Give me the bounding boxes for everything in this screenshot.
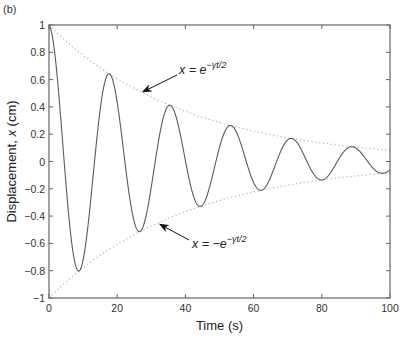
x-tick-label: 40 [180, 302, 192, 314]
x-tick-label: 60 [248, 302, 260, 314]
y-tick-label: −1 [33, 292, 45, 304]
x-tick-label: 80 [316, 302, 328, 314]
damped-oscillation-chart: (b) 020406080100 −1−0.8−0.6−0.4−0.200.20… [0, 0, 406, 339]
lower-envelope-arrow [160, 224, 189, 240]
lower-envelope-curve [49, 173, 390, 298]
x-tick-label: 100 [381, 302, 399, 314]
y-tick-label: 1 [39, 19, 45, 31]
y-axis-label: Displacement, x (cm) [4, 100, 19, 222]
y-tick-label: −0.4 [24, 210, 45, 222]
upper-envelope-arrow [143, 75, 177, 92]
y-tick-label: 0.2 [30, 128, 45, 140]
x-axis-label: Time (s) [196, 318, 243, 333]
y-tick-label: −0.2 [24, 183, 45, 195]
x-tick-label: 0 [46, 302, 52, 314]
y-tick-label: 0.4 [30, 101, 45, 113]
y-tick-label: 0 [39, 156, 45, 168]
upper-envelope-label: x = e−γt/2 [178, 60, 226, 77]
upper-envelope-curve [49, 25, 390, 150]
x-tick-label: 20 [111, 302, 123, 314]
y-tick-label: 0.8 [30, 46, 45, 58]
y-tick-label: −0.8 [24, 265, 45, 277]
y-tick-label: 0.6 [30, 74, 45, 86]
y-tick-label: −0.6 [24, 237, 45, 249]
lower-envelope-label: x = −e−γt/2 [191, 234, 247, 251]
panel-label: (b) [3, 3, 16, 15]
